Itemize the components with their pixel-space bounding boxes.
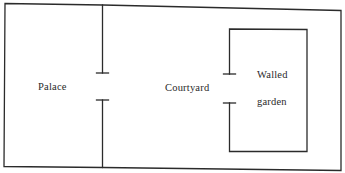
palace-label: Palace xyxy=(38,82,67,93)
walled-garden-label-line2: garden xyxy=(257,97,287,108)
courtyard-label: Courtyard xyxy=(165,83,209,94)
walled-garden-wall xyxy=(230,29,308,152)
walled-garden-label-line1: Walled xyxy=(257,70,288,81)
